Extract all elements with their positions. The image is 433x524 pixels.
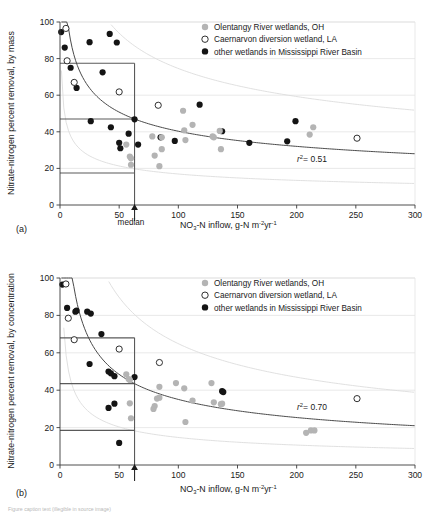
y-tick-label: 40 <box>45 127 55 137</box>
data-point <box>220 389 226 395</box>
x-axis-title-a-sup2: -1 <box>272 220 277 226</box>
r2-value-b: = 0.70 <box>303 402 327 412</box>
data-point <box>311 427 317 433</box>
panel-b: 050100150200250300 020406080100 Nitrate-… <box>0 258 433 513</box>
data-point <box>128 155 134 161</box>
filled-gray-circle-icon <box>202 24 208 30</box>
x-tick-label: 0 <box>58 470 63 480</box>
x-axis-title-a-rest: -N inflow, g-N m <box>196 220 259 230</box>
data-point <box>189 122 195 128</box>
x-tick-label: 200 <box>290 470 304 480</box>
y-tick-labels-a: 020406080100 <box>40 17 54 210</box>
data-point <box>107 31 113 37</box>
x-axis-title-b-rest: -N inflow, g-N m <box>196 484 259 494</box>
data-point <box>111 373 117 379</box>
data-point <box>208 380 214 386</box>
data-point <box>127 377 133 383</box>
data-point <box>284 138 290 144</box>
reference-box-a <box>60 63 135 205</box>
data-point <box>127 400 133 406</box>
data-point <box>189 397 195 403</box>
data-point <box>88 310 94 316</box>
data-point <box>64 305 70 311</box>
data-point <box>123 142 129 148</box>
data-point <box>63 281 69 287</box>
data-point <box>159 146 165 152</box>
data-point <box>180 108 186 114</box>
x-tick-label: 300 <box>408 470 422 480</box>
r2-annotation-b: r2= 0.70 <box>297 402 327 412</box>
y-tick-label: 0 <box>49 200 54 210</box>
data-point <box>292 118 298 124</box>
legend-label: other wetlands in Mississippi River Basi… <box>214 304 362 313</box>
x-axis-title-a-no: NO <box>180 220 193 230</box>
confidence-band-lower <box>61 71 414 184</box>
data-point <box>63 25 69 31</box>
data-point <box>116 89 122 95</box>
data-point <box>65 315 71 321</box>
figure-container: 050100150200250300 020406080100 median N… <box>0 0 433 524</box>
y-tick-label: 100 <box>40 17 54 27</box>
data-point <box>71 79 77 85</box>
panel-b-svg: 050100150200250300 020406080100 Nitrate-… <box>0 258 433 513</box>
filled-black-circle-icon <box>202 304 208 310</box>
data-point <box>126 131 132 137</box>
panel-label-a: (a) <box>16 224 27 234</box>
r2-value-a: = 0.51 <box>303 154 327 164</box>
data-point <box>68 65 74 71</box>
panel-a-svg: 050100150200250300 020406080100 median N… <box>0 0 433 255</box>
data-point <box>155 102 161 108</box>
x-tick-label: 150 <box>230 210 244 220</box>
data-point <box>62 45 68 51</box>
data-point <box>217 128 223 134</box>
data-point <box>354 135 360 141</box>
data-point <box>116 440 122 446</box>
data-point <box>116 346 122 352</box>
data-point <box>310 124 316 130</box>
data-point <box>114 39 120 45</box>
filled-black-circle-icon <box>202 48 208 54</box>
y-tick-label: 20 <box>45 423 55 433</box>
data-point <box>105 405 111 411</box>
legend-label: Olentangy River wetlands, OH <box>214 279 324 288</box>
x-axis-title-a: NO3-N inflow, g-N m-2yr-1 <box>180 220 277 232</box>
legend-label: Olentangy River wetlands, OH <box>214 23 324 32</box>
y-tick-label: 60 <box>45 90 55 100</box>
data-point <box>159 134 165 140</box>
x-axis-title-b-sup2: -1 <box>272 484 277 490</box>
y-axis-title-b: Nitrate-nitrogen percent removal, by con… <box>6 273 16 469</box>
data-point <box>152 152 158 158</box>
y-tick-label: 100 <box>40 273 54 283</box>
data-point <box>156 395 162 401</box>
legend-label: Caernarvon diversion wetland, LA <box>214 35 337 44</box>
x-tick-label: 200 <box>290 210 304 220</box>
data-point <box>64 58 70 64</box>
data-point <box>181 127 187 133</box>
open-circle-icon <box>202 36 208 42</box>
x-tick-labels-b: 050100150200250300 <box>58 470 423 480</box>
data-point <box>219 401 225 407</box>
data-point <box>181 385 187 391</box>
data-point <box>307 131 313 137</box>
median-marker-b <box>131 464 138 481</box>
y-tick-label: 80 <box>45 54 55 64</box>
y-tick-label: 60 <box>45 348 55 358</box>
legend-b: Olentangy River wetlands, OHCaernarvon d… <box>202 279 363 312</box>
legend-label: Caernarvon diversion wetland, LA <box>214 291 337 300</box>
data-point <box>149 133 155 139</box>
x-tick-label: 0 <box>58 210 63 220</box>
panel-label-b: (b) <box>16 488 27 498</box>
data-point <box>182 137 188 143</box>
data-point <box>182 419 188 425</box>
x-tick-label: 300 <box>408 210 422 220</box>
panel-a: 050100150200250300 020406080100 median N… <box>0 0 433 255</box>
data-point <box>246 140 252 146</box>
data-point <box>211 399 217 405</box>
data-point <box>197 102 203 108</box>
x-axis-title-b-no: NO <box>180 484 193 494</box>
x-tick-label: 250 <box>349 470 363 480</box>
y-tick-label: 40 <box>45 385 55 395</box>
y-tick-label: 20 <box>45 163 55 173</box>
figure-caption: Figure caption text (illegible in source… <box>0 506 433 514</box>
data-point <box>86 361 92 367</box>
